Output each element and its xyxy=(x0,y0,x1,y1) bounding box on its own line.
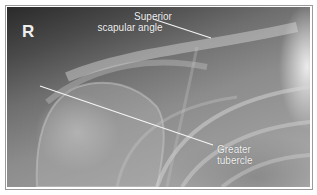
label-line: Superior xyxy=(112,11,176,22)
xray-image xyxy=(7,7,310,187)
label-line: Greater xyxy=(217,144,253,155)
label-line: scapular angle xyxy=(84,22,176,33)
greater-tubercle-label: Greater tubercle xyxy=(217,144,253,166)
side-marker: R xyxy=(22,22,34,42)
bone-structures xyxy=(7,7,310,187)
label-line: tubercle xyxy=(217,155,253,166)
superior-scapular-angle-label: Superior scapular angle xyxy=(112,11,176,33)
